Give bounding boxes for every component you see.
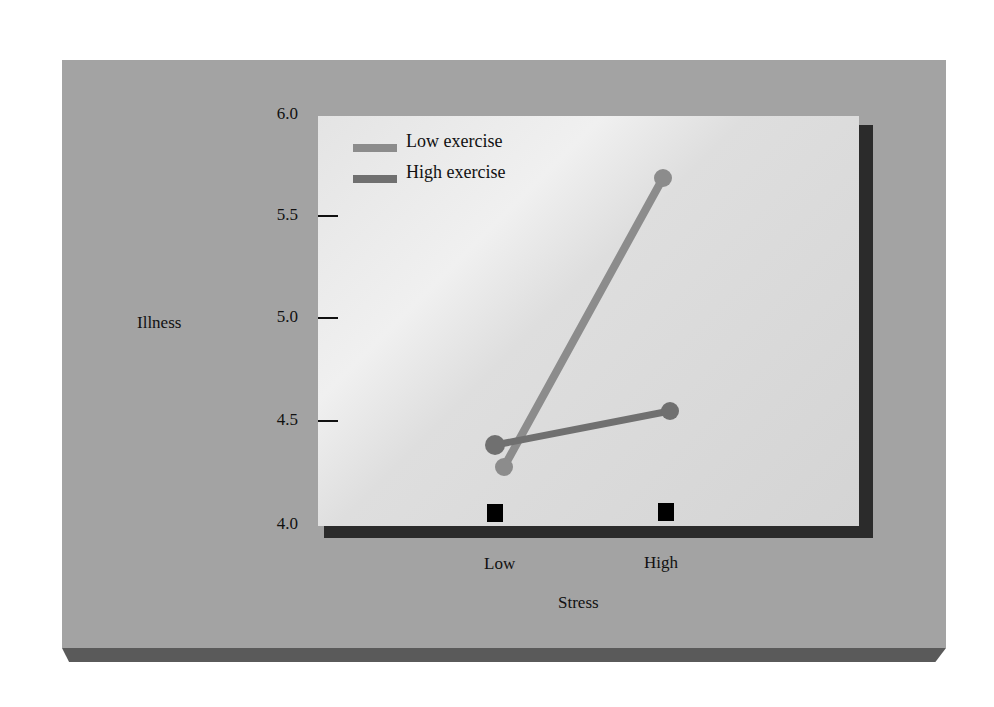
x-tick-label-low: Low <box>484 554 515 574</box>
y-tick-label-4.0: 4.0 <box>248 514 298 534</box>
plot-area <box>318 116 859 526</box>
legend-label-low-exercise: Low exercise <box>406 131 502 152</box>
y-tick-label-5.5: 5.5 <box>248 205 298 225</box>
x-tick-label-high: High <box>644 553 678 573</box>
y-axis-label: Illness <box>137 313 181 333</box>
legend-label-high-exercise: High exercise <box>406 162 505 183</box>
panel-bottom-edge <box>62 648 946 662</box>
legend-swatch-low-exercise <box>353 144 397 152</box>
y-tick-label-4.5: 4.5 <box>248 410 298 430</box>
y-tick-5.5 <box>318 215 338 217</box>
y-tick-label-6.0: 6.0 <box>248 104 298 124</box>
legend-swatch-high-exercise <box>353 175 397 183</box>
y-tick-5.0 <box>318 317 338 319</box>
x-marker-high <box>658 503 674 521</box>
x-axis-label: Stress <box>558 593 599 613</box>
y-tick-label-5.0: 5.0 <box>248 307 298 327</box>
y-tick-4.5 <box>318 420 338 422</box>
x-marker-low <box>487 504 503 522</box>
